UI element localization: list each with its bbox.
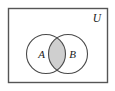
venn-diagram-canvas: U A B <box>0 0 115 91</box>
universal-set-label: U <box>93 12 102 24</box>
set-label-b: B <box>69 48 76 60</box>
venn-diagram-figure: U A B <box>0 0 115 91</box>
set-label-a: A <box>37 48 45 60</box>
